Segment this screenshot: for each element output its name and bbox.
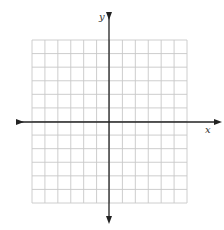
coordinate-plane: y x [0, 0, 224, 230]
y-axis-label: y [99, 12, 105, 22]
x-axis-label: x [205, 125, 211, 135]
coordinate-grid [0, 0, 224, 230]
